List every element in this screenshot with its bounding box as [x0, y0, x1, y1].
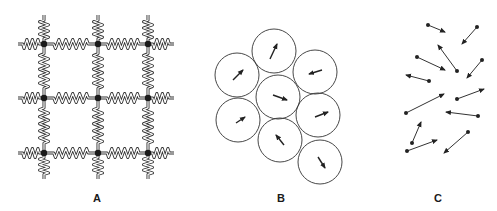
panel-label-c: C: [434, 192, 442, 204]
arrow-icon: [233, 70, 243, 80]
particle-dot: [455, 69, 459, 73]
particle-dot: [466, 130, 470, 134]
particle-dot: [427, 79, 431, 83]
mass-node: [95, 95, 101, 101]
arrow-icon: [276, 135, 284, 145]
random-vectors-panel: [404, 23, 484, 153]
arrow-icon: [273, 95, 287, 100]
arrow-icon: [309, 70, 322, 74]
particle-dot: [404, 111, 408, 115]
vector-arrow-icon: [406, 94, 444, 113]
mass-node: [41, 150, 47, 156]
arrow-icon: [315, 112, 328, 117]
particle-dot: [476, 114, 480, 118]
vector-arrow-icon: [428, 25, 445, 32]
particle-circle: [296, 93, 340, 137]
spring-lattice-panel: [18, 15, 174, 179]
particle-dot: [410, 141, 414, 145]
vector-arrow-icon: [417, 57, 445, 70]
circle-packing-panel: [215, 29, 342, 184]
panel-label-b: B: [277, 192, 285, 204]
vector-arrow-icon: [462, 27, 477, 44]
mass-node: [145, 41, 151, 47]
particle-dot: [480, 58, 484, 62]
vector-arrow-icon: [406, 75, 429, 81]
arrow-icon: [270, 44, 277, 59]
panel-label-a: A: [93, 192, 101, 204]
particle-dot: [455, 97, 459, 101]
mass-node: [95, 150, 101, 156]
vector-arrow-icon: [457, 89, 484, 99]
vector-arrow-icon: [438, 45, 457, 71]
vector-arrow-icon: [467, 60, 482, 78]
particle-dot: [405, 149, 409, 153]
vector-arrow-icon: [444, 132, 468, 153]
particle-circle: [298, 140, 342, 184]
mass-node: [41, 41, 47, 47]
mass-node: [145, 150, 151, 156]
arrow-icon: [318, 157, 325, 168]
particle-dot: [475, 25, 479, 29]
mass-node: [145, 95, 151, 101]
particle-circle: [215, 53, 259, 97]
vector-arrow-icon: [412, 122, 421, 143]
particle-dot: [415, 55, 419, 59]
particle-dot: [426, 23, 430, 27]
arrow-icon: [236, 117, 245, 123]
physics-model-diagram: [0, 0, 497, 211]
particle-circle: [216, 98, 260, 142]
mass-node: [95, 41, 101, 47]
vector-arrow-icon: [446, 112, 478, 116]
mass-node: [41, 95, 47, 101]
